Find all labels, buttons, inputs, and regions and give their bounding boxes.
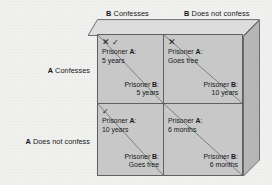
prisoner-b-label-suffix: : [157,81,159,88]
x-mark-icon: ✕ [102,38,110,47]
prisoner-a-label-prefix: Prisoner [168,48,196,55]
prisoner-b-payoff: Prisoner B: Goes free [125,153,159,170]
column-header-b-does-not-confess: B Does not confess [184,9,249,18]
column-header-0-text: Confesses [111,9,148,18]
prisoners-dilemma-figure: B Confesses B Does not confess A Confess… [0,0,272,185]
payoff-cell-not-confess-not-confess[interactable]: Prisoner A: 6 months Prisoner B: 6 month… [164,104,242,175]
prisoner-b-label-suffix: : [236,153,238,160]
prisoner-b-outcome: 10 years [212,89,238,96]
prisoner-a-payoff: Prisoner A: 10 years [102,117,136,134]
row-header-a-does-not-confess: A Does not confess [0,137,90,146]
prisoner-b-payoff: Prisoner B: 5 years [125,81,159,98]
x-mark-icon: ✕ [168,38,176,47]
prisoner-b-outcome: 6 months [210,161,238,168]
prisoner-a-label-suffix: : [135,48,137,55]
prisoner-a-outcome: 5 years [102,57,125,64]
payoff-matrix-grid: ✕ ✓ Prisoner A: 5 years Prisoner B: 5 ye… [97,34,243,176]
prisoner-b-label-prefix: Prisoner [204,81,232,88]
prisoner-a-payoff: Prisoner A: 5 years [102,48,136,65]
prisoner-a-payoff: Prisoner A: Goes free [168,48,202,65]
prisoner-b-outcome: 5 years [136,89,159,96]
column-header-1-text: Does not confess [189,9,249,18]
prisoner-a-label-suffix: : [201,48,203,55]
prisoner-b-label-prefix: Prisoner [204,153,232,160]
prisoner-a-label-suffix: : [201,117,203,124]
prisoner-a-outcome: 6 months [168,126,196,133]
prisoner-a-label-prefix: Prisoner [168,117,196,124]
payoff-cell-not-confess-confess[interactable]: ✓ Prisoner A: 10 years Prisoner B: Goes … [98,104,164,175]
prisoner-b-payoff: Prisoner B: 6 months [204,153,238,170]
box-right-face [243,19,263,177]
prisoner-b-label-prefix: Prisoner [125,153,153,160]
cell-marks-0-0: ✕ ✓ [102,37,119,48]
row-header-1-text: Does not confess [31,137,90,146]
prisoner-a-label-prefix: Prisoner [102,48,130,55]
cell-marks-1-0: ✓ [102,106,109,117]
row-header-a-confesses: A Confesses [0,66,90,75]
prisoner-a-label-prefix: Prisoner [102,117,130,124]
prisoner-a-payoff: Prisoner A: 6 months [168,117,202,134]
prisoner-b-label-suffix: : [236,81,238,88]
prisoner-a-outcome: 10 years [102,126,128,133]
check-mark-icon: ✓ [112,39,119,47]
prisoner-a-outcome: Goes free [168,57,198,64]
payoff-cell-confess-confess[interactable]: ✕ ✓ Prisoner A: 5 years Prisoner B: 5 ye… [98,35,164,104]
payoff-cell-confess-not-confess[interactable]: ✕ Prisoner A: Goes free Prisoner B: 10 y… [164,35,242,104]
prisoner-a-label-suffix: : [135,117,137,124]
column-header-b-confesses: B Confesses [106,9,149,18]
check-mark-icon: ✓ [102,108,109,116]
prisoner-b-label-prefix: Prisoner [125,81,153,88]
prisoner-b-outcome: Goes free [129,161,159,168]
row-header-0-text: Confesses [53,66,90,75]
prisoner-b-label-suffix: : [157,153,159,160]
prisoner-b-payoff: Prisoner B: 10 years [204,81,238,98]
cell-marks-0-1: ✕ [168,37,176,48]
